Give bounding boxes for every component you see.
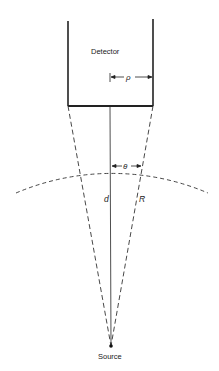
detector-walls	[68, 19, 153, 106]
sphere-arc	[16, 173, 208, 193]
r-label: R	[139, 194, 145, 204]
theta-label: θ	[123, 162, 128, 171]
geometry-diagram: Detector ρ θ d R Source	[0, 0, 219, 371]
d-label: d	[104, 194, 109, 204]
source-point	[109, 344, 113, 348]
axis-line	[110, 106, 111, 346]
rho-label: ρ	[125, 73, 131, 82]
source-label: Source	[98, 352, 122, 361]
rho-dimension	[110, 73, 152, 82]
detector-label: Detector	[91, 47, 120, 56]
